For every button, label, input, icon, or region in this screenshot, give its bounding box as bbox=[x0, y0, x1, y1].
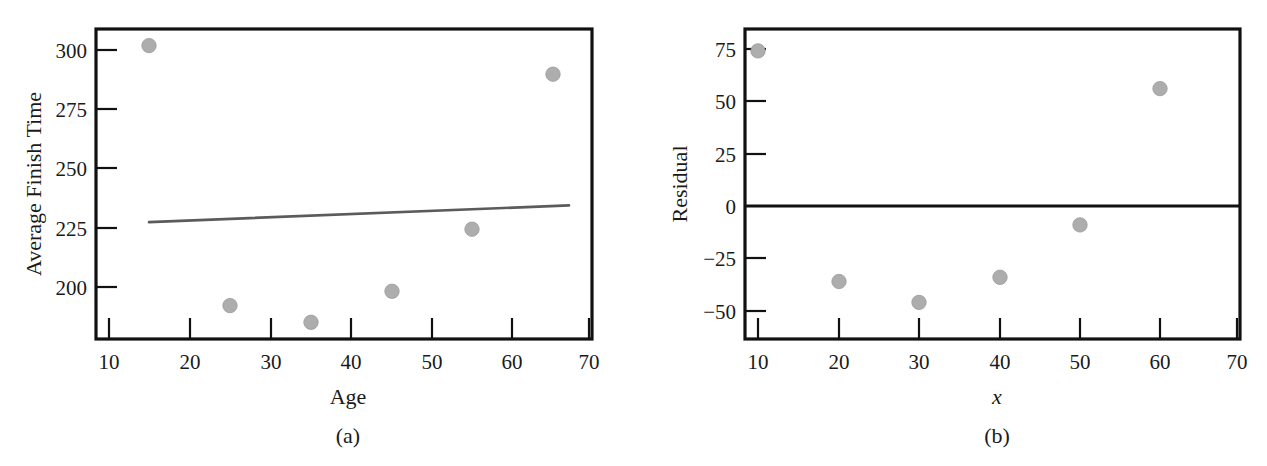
x-tick-label: 10 bbox=[99, 350, 120, 374]
x-tick-label: 50 bbox=[422, 350, 443, 374]
x-tick-label: 30 bbox=[261, 350, 282, 374]
data-point bbox=[142, 38, 156, 52]
data-point bbox=[912, 295, 926, 309]
panel-b-x-tick-labels: 10 20 30 40 50 60 70 bbox=[748, 350, 1248, 374]
data-point bbox=[1073, 218, 1087, 232]
panel-a-x-axis-title: Age bbox=[330, 384, 367, 409]
y-tick-label: −50 bbox=[703, 300, 736, 324]
panel-a-x-tick-labels: 10 20 30 40 50 60 70 bbox=[99, 350, 600, 374]
y-tick-label: 75 bbox=[715, 38, 736, 62]
y-tick-label: −25 bbox=[703, 247, 736, 271]
data-point bbox=[993, 270, 1007, 284]
figure-two-panel-scatter: 300 275 250 225 200 10 20 30 40 50 60 70… bbox=[0, 0, 1267, 466]
x-tick-label: 20 bbox=[180, 350, 201, 374]
y-tick-label: 275 bbox=[56, 98, 88, 122]
panel-a-y-axis-title: Average Finish Time bbox=[21, 92, 46, 276]
x-tick-label: 50 bbox=[1070, 350, 1091, 374]
y-tick-label: 300 bbox=[56, 39, 88, 63]
panel-b-y-tick-labels: 75 50 25 0 −25 −50 bbox=[703, 38, 736, 324]
panel-a-data-points bbox=[142, 38, 560, 329]
data-point bbox=[385, 284, 399, 298]
x-tick-label: 20 bbox=[829, 350, 850, 374]
data-point bbox=[546, 67, 560, 81]
data-point bbox=[832, 274, 846, 288]
panel-a-plot-frame bbox=[96, 29, 592, 339]
panel-b-data-points bbox=[751, 44, 1167, 310]
y-tick-label: 25 bbox=[715, 143, 736, 167]
data-point bbox=[465, 222, 479, 236]
panel-b-tag: (b) bbox=[984, 423, 1010, 448]
panel-b-plot-frame bbox=[745, 29, 1240, 339]
x-tick-label: 40 bbox=[990, 350, 1011, 374]
x-tick-label: 60 bbox=[502, 350, 523, 374]
data-point bbox=[751, 44, 765, 58]
panel-a-y-tick-labels: 300 275 250 225 200 bbox=[56, 39, 88, 300]
y-tick-label: 50 bbox=[715, 90, 736, 114]
panel-b-residual-plot: 75 50 25 0 −25 −50 10 20 30 40 50 60 70 … bbox=[627, 0, 1267, 466]
y-tick-label: 225 bbox=[56, 217, 88, 241]
panel-a-svg: 300 275 250 225 200 10 20 30 40 50 60 70… bbox=[0, 0, 627, 466]
panel-a-tag: (a) bbox=[336, 423, 360, 448]
x-tick-label: 40 bbox=[341, 350, 362, 374]
panel-b-y-axis-title: Residual bbox=[667, 146, 692, 223]
panel-b-svg: 75 50 25 0 −25 −50 10 20 30 40 50 60 70 … bbox=[627, 0, 1267, 466]
x-tick-label: 10 bbox=[748, 350, 769, 374]
panel-a-y-ticks bbox=[96, 50, 117, 287]
y-tick-label: 200 bbox=[56, 276, 88, 300]
panel-a-x-ticks bbox=[109, 318, 589, 339]
x-tick-label: 70 bbox=[1227, 350, 1248, 374]
panel-b-y-ticks bbox=[745, 49, 766, 311]
data-point bbox=[1153, 81, 1167, 95]
panel-b-x-axis-title: x bbox=[991, 384, 1002, 409]
x-tick-label: 30 bbox=[909, 350, 930, 374]
panel-a-scatterplot: 300 275 250 225 200 10 20 30 40 50 60 70… bbox=[0, 0, 627, 466]
panel-a-regression-line bbox=[149, 205, 569, 222]
data-point bbox=[304, 315, 318, 329]
x-tick-label: 60 bbox=[1150, 350, 1171, 374]
y-tick-label: 0 bbox=[726, 195, 737, 219]
panel-b-x-ticks bbox=[758, 318, 1237, 339]
y-tick-label: 250 bbox=[56, 157, 88, 181]
data-point bbox=[223, 298, 237, 312]
x-tick-label: 70 bbox=[579, 350, 600, 374]
